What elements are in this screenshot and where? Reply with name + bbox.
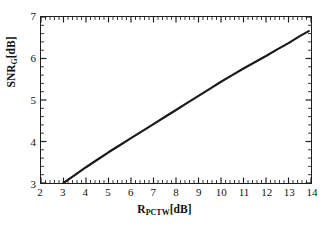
y-tick-label: 6 — [18, 53, 36, 64]
y-axis-title: SNRG[dB] — [5, 2, 17, 122]
x-tick-label: 2 — [37, 187, 43, 198]
y-axis-title-subscript: G — [10, 58, 19, 64]
minor-ticks — [41, 17, 311, 183]
x-tick-label: 8 — [173, 187, 179, 198]
y-axis-title-unit: [dB] — [5, 37, 17, 59]
plot-svg — [41, 17, 311, 183]
x-tick-label: 3 — [60, 187, 66, 198]
x-tick-label: 13 — [284, 187, 295, 198]
x-tick-label: 9 — [196, 187, 202, 198]
x-tick-label: 7 — [151, 187, 157, 198]
y-tick-label: 3 — [18, 179, 36, 190]
x-tick-label: 10 — [216, 187, 227, 198]
x-tick-label: 4 — [83, 187, 89, 198]
x-tick-label: 14 — [307, 187, 318, 198]
y-axis-title-base: SNR — [5, 64, 17, 87]
major-ticks — [41, 17, 311, 183]
figure-canvas: 234567891011121314 34567 RPCTW[dB] SNRG[… — [0, 0, 329, 227]
x-axis-title: RPCTW[dB] — [0, 203, 329, 215]
x-tick-label: 11 — [239, 187, 250, 198]
x-tick-label: 5 — [105, 187, 111, 198]
y-tick-label: 4 — [18, 137, 36, 148]
x-axis-title-unit: [dB] — [170, 203, 192, 215]
x-axis-title-subscript: PCTW — [146, 208, 170, 217]
x-tick-label: 12 — [261, 187, 272, 198]
data-series-line — [64, 31, 309, 183]
y-tick-label: 7 — [18, 11, 36, 22]
plot-area — [40, 16, 312, 184]
x-tick-label: 6 — [128, 187, 134, 198]
y-tick-label: 5 — [18, 95, 36, 106]
x-axis-title-base: R — [137, 203, 145, 215]
